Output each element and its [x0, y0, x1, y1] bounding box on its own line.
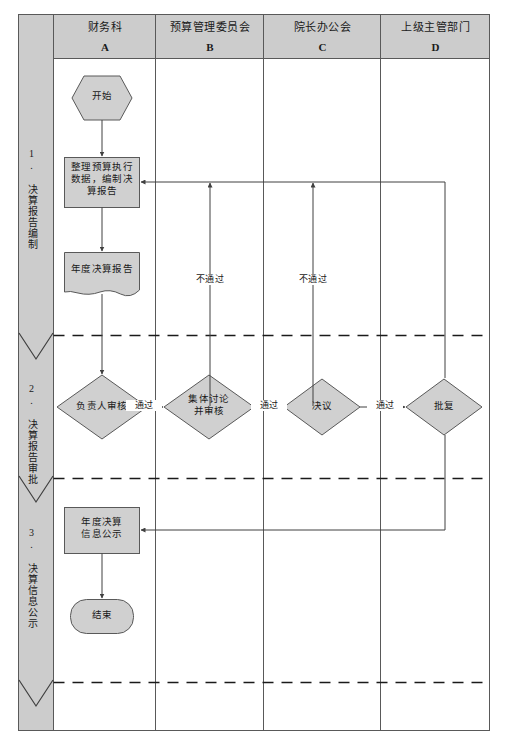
node-label-end: 结束 [70, 610, 134, 622]
column-header-name-c: 院长办公会 [264, 21, 381, 35]
edge-label-pass-1: 通过 [126, 400, 162, 411]
edge-label-pass-2: 通过 [251, 400, 287, 411]
flowchart-canvas: 财务科 A 预算管理委员会 B 院长办公会 C 上级主管部门 D 1. 决算报告… [0, 0, 507, 743]
node-label-prepare: 整理预算执行 数据，编制决 算报告 [64, 162, 140, 198]
node-label-start: 开始 [72, 91, 132, 103]
node-label-approval-reply: 批复 [414, 401, 474, 413]
node-label-resolution: 决议 [292, 401, 352, 413]
edge-label-fail-2: 不通过 [290, 274, 336, 285]
column-header-name-d: 上级主管部门 [381, 21, 490, 35]
node-label-publish: 年度决算 信息公示 [64, 517, 140, 541]
edge-label-fail-1: 不通过 [187, 274, 233, 285]
column-header-code-b: B [156, 41, 264, 55]
column-header-code-c: C [264, 41, 381, 55]
edge-label-pass-3: 通过 [367, 400, 403, 411]
flowchart-graphics [0, 0, 507, 743]
node-label-report-doc: 年度决算报告 [64, 264, 140, 276]
column-header-code-a: A [54, 41, 156, 55]
node-label-committee-review: 集体讨论 并审核 [173, 394, 245, 418]
phase-label-2: 2. 决算报告审批 [26, 383, 37, 485]
column-header-name-b: 预算管理委员会 [156, 21, 264, 35]
phase-label-1: 1. 决算报告编制 [26, 148, 37, 250]
column-header-code-d: D [381, 41, 490, 55]
phase-label-3: 3. 决算信息公示 [26, 527, 37, 629]
column-header-name-a: 财务科 [54, 21, 156, 35]
